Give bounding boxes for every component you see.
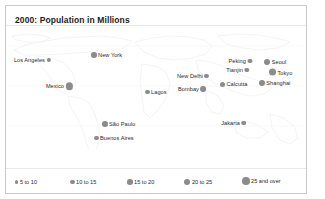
city-marker: Peking [229, 58, 253, 64]
city-marker: Buenos Aires [94, 135, 134, 141]
city-marker: Jakarta [221, 120, 246, 126]
legend-label: 25 and over [251, 178, 281, 184]
legend-dot [127, 179, 133, 185]
city-label: Tianjin [226, 67, 243, 73]
legend-label: 20 to 25 [192, 179, 212, 185]
city-dot [94, 136, 99, 141]
city-label: Seoul [272, 59, 287, 65]
city-marker: New York [91, 52, 122, 58]
legend-item: 20 to 25 [184, 179, 212, 185]
city-dot [46, 58, 51, 63]
city-label: Calcutta [227, 81, 248, 87]
city-label: New York [98, 52, 122, 58]
city-marker: São Paulo [102, 121, 135, 127]
legend-dot [242, 177, 250, 185]
city-marker: Tianjin [226, 67, 249, 73]
legend-label: 10 to 15 [76, 179, 96, 185]
city-label: Shanghai [266, 80, 290, 86]
legend-item: 15 to 20 [127, 179, 154, 185]
city-label: São Paulo [109, 121, 135, 127]
legend-dot [70, 180, 75, 185]
city-dot [65, 82, 73, 90]
city-label: Buenos Aires [100, 135, 134, 141]
city-marker: Tokyo [269, 69, 292, 76]
legend-dot [184, 179, 190, 185]
city-label: Peking [229, 58, 246, 64]
city-dot [244, 68, 249, 73]
city-label: New Delhi [177, 73, 203, 79]
city-dot [241, 121, 246, 126]
legend-label: 5 to 10 [20, 179, 37, 185]
city-label: Tokyo [278, 69, 293, 75]
population-map-figure: 2000: Population in Millions Los Angeles… [5, 5, 307, 194]
city-dot [220, 82, 225, 87]
legend-item: 10 to 15 [70, 179, 96, 185]
city-marker: Los Angeles [14, 57, 51, 63]
city-dot [247, 59, 252, 64]
city-label: Mexico [46, 83, 64, 89]
city-dot [264, 59, 270, 65]
city-marker: Lagos [145, 89, 167, 95]
legend-label: 15 to 20 [134, 179, 154, 185]
legend-divider [6, 168, 306, 169]
city-dot [259, 80, 265, 86]
city-label: Los Angeles [14, 57, 45, 63]
legend-dot [15, 180, 18, 183]
city-dot [200, 86, 206, 92]
city-marker: Calcutta [220, 81, 247, 87]
city-dot [145, 90, 150, 95]
city-label: Jakarta [221, 120, 240, 126]
legend-item: 5 to 10 [15, 179, 37, 185]
legend: 5 to 1010 to 1515 to 2020 to 2525 and ov… [6, 171, 306, 185]
city-marker: Shanghai [259, 80, 290, 86]
city-marker: New Delhi [177, 73, 209, 79]
city-dot [91, 52, 97, 58]
city-marker: Bombay [178, 86, 206, 92]
legend-item: 25 and over [242, 177, 281, 185]
city-dot [269, 69, 276, 76]
city-marker: Seoul [264, 59, 286, 65]
city-label: Bombay [178, 86, 199, 92]
city-marker: Mexico [46, 82, 73, 90]
city-dot [204, 74, 209, 79]
city-dot [102, 121, 108, 127]
city-label: Lagos [151, 89, 167, 95]
